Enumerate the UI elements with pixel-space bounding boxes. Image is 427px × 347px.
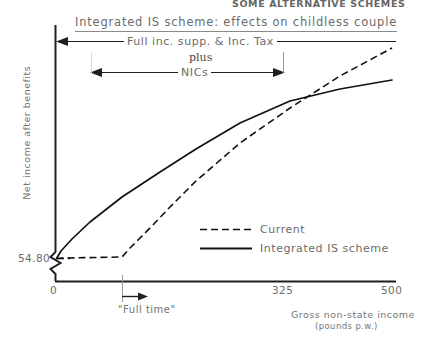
legend-label-integrated-is-scheme: Integrated IS scheme <box>260 243 389 254</box>
series-path-integrated-is-scheme <box>57 80 393 259</box>
y-axis-break-icon <box>51 252 61 281</box>
fulltime-arrow-head-icon <box>138 293 148 301</box>
x-axis-units: (pounds p.w.) <box>315 322 378 331</box>
x-axis-tick-label-325: 325 <box>272 285 293 296</box>
axes-group <box>51 25 397 302</box>
annotation-label-full-inc-supp: Full inc. supp. & Inc. Tax <box>124 36 277 47</box>
annotation-label-full-time: "Full time" <box>118 305 176 315</box>
y-axis-tick-label-54-80: 54.80 <box>18 253 50 264</box>
legend-group <box>200 230 252 249</box>
band1-arrow-head-left-icon <box>56 37 68 46</box>
x-axis-tick-label-0: 0 <box>50 285 57 296</box>
x-axis-tick-label-500: 500 <box>381 285 402 296</box>
series-path-current <box>57 48 393 259</box>
annotation-label-nics: NICs <box>178 67 211 78</box>
y-axis-title: Net income after benefits <box>22 80 32 200</box>
figure-panel: SOME ALTERNATIVE SCHEMES Integrated IS s… <box>0 0 427 347</box>
x-axis-title: Gross non-state income <box>291 310 415 320</box>
legend-label-current: Current <box>260 224 305 235</box>
annotation-label-plus: plus <box>186 52 215 63</box>
series-group <box>57 42 393 259</box>
